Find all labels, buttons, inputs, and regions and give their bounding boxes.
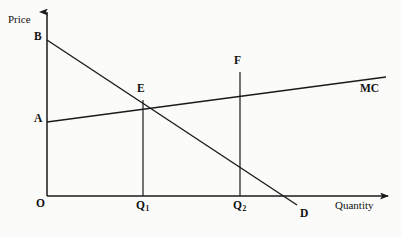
point-label-b: B xyxy=(34,31,42,43)
point-label-f: F xyxy=(234,55,241,67)
x-tick-q1-subscript: 1 xyxy=(145,204,149,213)
curve-label-d: D xyxy=(300,208,308,220)
x-tick-q2-subscript: 2 xyxy=(242,204,246,213)
demand-curve xyxy=(47,40,297,205)
economics-diagram: Price Quantity O B A E F MC D Q1 Q2 xyxy=(0,0,402,237)
x-axis-label-quantity: Quantity xyxy=(335,200,374,211)
point-label-a: A xyxy=(34,113,42,125)
x-tick-q1-base: Q xyxy=(136,199,145,211)
curve-label-mc: MC xyxy=(360,83,379,95)
x-tick-q2-base: Q xyxy=(233,199,242,211)
point-label-e: E xyxy=(137,83,145,95)
y-axis-label-price: Price xyxy=(8,14,31,25)
origin-label: O xyxy=(36,198,45,210)
x-tick-label-q2: Q2 xyxy=(233,200,246,212)
x-tick-label-q1: Q1 xyxy=(136,200,149,212)
marginal-cost-curve xyxy=(47,77,386,122)
